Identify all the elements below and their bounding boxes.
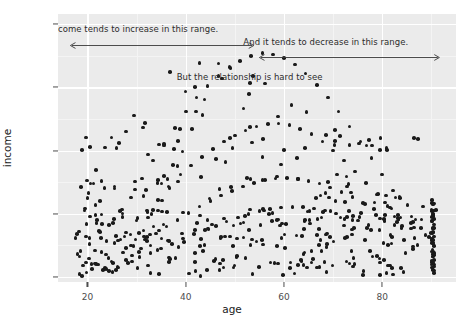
x-axis-title: age — [0, 303, 464, 315]
annotation-increase-arrow — [69, 35, 255, 44]
x-tick-mark — [185, 282, 186, 287]
y-axis-title: income — [1, 129, 13, 167]
x-tick-label: 80 — [377, 292, 388, 302]
x-tick-mark — [382, 282, 383, 287]
annotation-layer: Income tends to increase in this range.A… — [58, 14, 456, 282]
x-tick-mark — [87, 282, 88, 287]
y-tick-mark — [53, 24, 58, 25]
annotation-hard-to-see-text: But the relationship is hard to see — [177, 72, 323, 82]
annotation-increase-text: Income tends to increase in this range. — [58, 24, 218, 34]
y-tick-mark — [53, 150, 58, 151]
y-axis-label-wrapper: income — [0, 14, 14, 282]
x-tick-label: 20 — [82, 292, 93, 302]
x-tick-label: 60 — [278, 292, 289, 302]
x-tick-label: 40 — [180, 292, 191, 302]
y-tick-mark — [53, 87, 58, 88]
annotation-decrease-text: And it tends to decrease in this range. — [243, 37, 408, 47]
y-tick-mark — [53, 213, 58, 214]
scatter-plot-figure: Income tends to increase in this range.A… — [0, 0, 464, 323]
plot-panel: Income tends to increase in this range.A… — [58, 14, 456, 282]
y-tick-mark — [53, 276, 58, 277]
annotation-decrease-arrow — [258, 47, 441, 56]
x-tick-mark — [283, 282, 284, 287]
